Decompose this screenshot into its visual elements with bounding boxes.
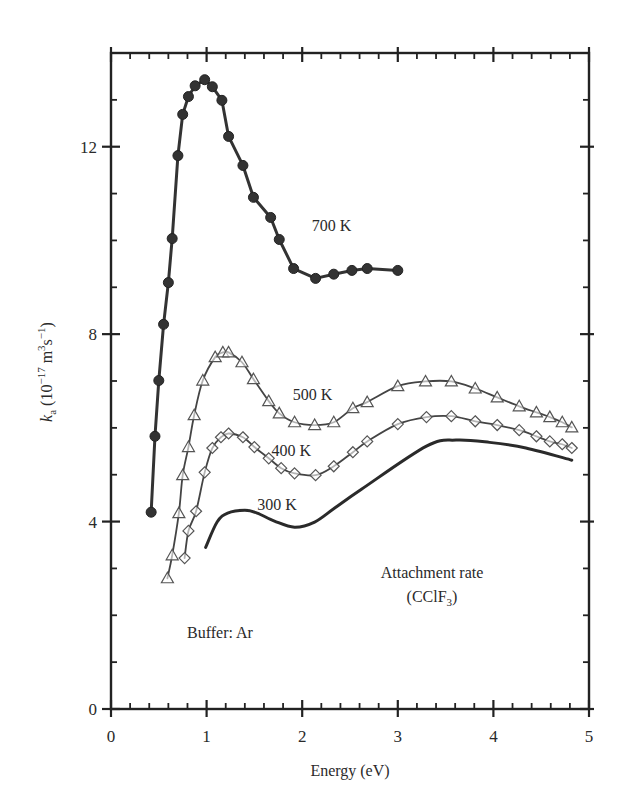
data-marker-circle — [362, 264, 372, 274]
series-layer — [146, 75, 578, 583]
data-marker-circle — [224, 131, 234, 141]
series-500k — [161, 346, 577, 582]
data-marker-circle — [150, 431, 160, 441]
data-marker-diamond — [191, 506, 202, 517]
annotation-compound: (CClF3) — [407, 588, 458, 608]
series-label-700k: 700 K — [312, 217, 352, 234]
annotation-buffer: Buffer: Ar — [187, 624, 254, 641]
data-marker-diamond — [392, 419, 403, 430]
axis-ticks — [102, 47, 594, 717]
compound-main: (CClF — [407, 588, 447, 606]
data-marker-circle — [207, 82, 217, 92]
series-label-500k: 500 K — [293, 386, 333, 403]
chart-figure: 01234504812 Energy (eV) ka (10−17 m3s−1)… — [0, 0, 632, 811]
data-marker-triangle — [197, 375, 209, 386]
data-marker-diamond — [289, 468, 300, 479]
series-line — [206, 440, 572, 547]
data-marker-diamond — [183, 525, 194, 536]
data-marker-circle — [167, 234, 177, 244]
y-axis-title: ka (10−17 m3s−1) — [35, 322, 58, 422]
data-marker-diamond — [179, 553, 190, 564]
data-marker-triangle — [173, 507, 185, 518]
y-tick-label: 0 — [89, 700, 98, 719]
attachment-rate-chart: 01234504812 Energy (eV) ka (10−17 m3s−1)… — [0, 0, 632, 811]
y-axis-units-prefix: (10 — [38, 385, 56, 410]
y-axis-units-suffix: ) — [38, 322, 56, 327]
data-marker-circle — [274, 234, 284, 244]
data-marker-diamond — [310, 470, 321, 481]
plot-frame — [111, 53, 589, 709]
data-marker-triangle — [347, 402, 359, 413]
x-axis-title: Energy (eV) — [310, 762, 389, 780]
data-marker-triangle — [556, 416, 568, 427]
data-marker-diamond — [199, 467, 210, 478]
y-axis-exponent-neg1: −1 — [35, 327, 47, 339]
x-tick-label: 0 — [107, 727, 116, 746]
data-marker-circle — [154, 376, 164, 386]
data-marker-circle — [217, 95, 227, 105]
series-label-300k: 300 K — [257, 496, 297, 513]
data-marker-diamond — [421, 412, 432, 423]
data-marker-diamond — [470, 416, 481, 427]
data-marker-diamond — [514, 425, 525, 436]
plot-border — [111, 53, 589, 709]
data-marker-triangle — [166, 549, 178, 560]
data-marker-circle — [266, 212, 276, 222]
y-axis-exponent: −17 — [35, 367, 47, 385]
data-marker-triangle — [177, 469, 189, 480]
series-label-400k: 400 K — [272, 442, 312, 459]
data-marker-circle — [393, 265, 403, 275]
data-marker-circle — [183, 92, 193, 102]
data-marker-circle — [163, 278, 173, 288]
data-marker-triangle — [247, 373, 259, 384]
x-tick-label: 1 — [202, 727, 211, 746]
y-tick-label: 8 — [89, 325, 98, 344]
data-marker-triangle — [328, 416, 340, 427]
data-marker-diamond — [531, 431, 542, 442]
data-marker-circle — [159, 319, 169, 329]
data-marker-diamond — [362, 436, 373, 447]
series-line — [167, 351, 571, 578]
data-marker-circle — [178, 109, 188, 119]
data-marker-triangle — [188, 409, 200, 420]
data-marker-diamond — [492, 420, 503, 431]
data-marker-triangle — [361, 396, 373, 407]
x-tick-label: 5 — [585, 727, 594, 746]
data-marker-diamond — [276, 463, 287, 474]
data-marker-circle — [190, 81, 200, 91]
x-tick-label: 3 — [394, 727, 403, 746]
data-marker-circle — [311, 273, 321, 283]
compound-end: ) — [452, 588, 457, 606]
series-300k — [206, 440, 572, 547]
data-marker-circle — [248, 192, 258, 202]
x-tick-label: 2 — [298, 727, 307, 746]
series-400k — [179, 411, 577, 564]
data-marker-diamond — [328, 461, 339, 472]
data-marker-triangle — [182, 441, 194, 452]
x-tick-label: 4 — [489, 727, 498, 746]
data-marker-diamond — [446, 411, 457, 422]
data-marker-diamond — [544, 436, 555, 447]
y-tick-label: 4 — [89, 513, 98, 532]
data-marker-circle — [173, 151, 183, 161]
annotation-attachment-rate: Attachment rate — [381, 564, 484, 581]
data-marker-circle — [146, 507, 156, 517]
data-marker-diamond — [207, 443, 218, 454]
data-marker-circle — [238, 160, 248, 170]
data-marker-circle — [289, 264, 299, 274]
y-axis-units-m: m — [38, 350, 55, 367]
data-marker-circle — [347, 265, 357, 275]
data-marker-circle — [329, 269, 339, 279]
y-tick-label: 12 — [80, 138, 97, 157]
data-marker-triangle — [161, 572, 173, 583]
data-marker-triangle — [491, 391, 503, 402]
